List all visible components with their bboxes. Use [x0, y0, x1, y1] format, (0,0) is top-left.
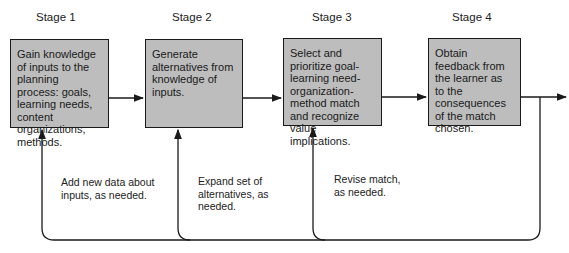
feedback-arrow-stage2 — [178, 130, 190, 240]
stage-4-label: Stage 4 — [452, 11, 492, 23]
stage-3-box: Select and prioritize goal-learning need… — [283, 38, 382, 126]
stage-3-label: Stage 3 — [312, 11, 352, 23]
stage-1-label: Stage 1 — [36, 11, 76, 23]
stage-2-label: Stage 2 — [172, 11, 212, 23]
stage-2-box: Generate alternatives from knowledge of … — [145, 39, 243, 128]
feedback-note-stage1: Add new data about inputs, as needed. — [61, 176, 161, 201]
stage-4-box: Obtain feedback from the learner as to t… — [428, 38, 521, 126]
feedback-note-stage2: Expand set of alternatives, as needed. — [198, 175, 278, 213]
stage-1-box: Gain knowledge of inputs to the planning… — [10, 39, 109, 128]
feedback-note-stage3: Revise match, as needed. — [334, 173, 402, 198]
